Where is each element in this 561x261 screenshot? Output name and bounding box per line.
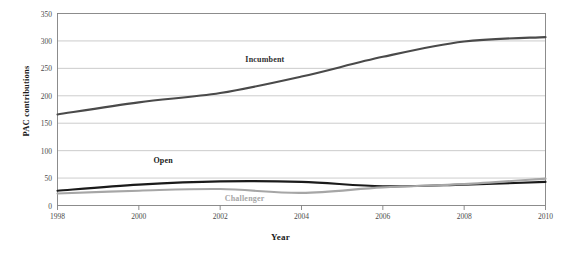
y-tick-label: 150 bbox=[20, 119, 52, 128]
x-tick-label: 2000 bbox=[131, 212, 146, 221]
plot-area bbox=[0, 0, 561, 261]
series-label-incumbent: Incumbent bbox=[245, 54, 284, 63]
series-line-incumbent bbox=[58, 37, 546, 114]
x-tick-label: 2002 bbox=[213, 212, 228, 221]
y-tick-label: 200 bbox=[20, 91, 52, 100]
x-axis-title: Year bbox=[0, 232, 561, 242]
x-tick-label: 2004 bbox=[294, 212, 309, 221]
y-tick-label: 300 bbox=[20, 36, 52, 45]
y-tick-label: 100 bbox=[20, 146, 52, 155]
pac-contributions-line-chart: PAC contributions 050100150200250300350 … bbox=[0, 0, 561, 261]
series-label-open: Open bbox=[153, 156, 172, 165]
x-tick-label: 2010 bbox=[538, 212, 553, 221]
x-tick-label: 2008 bbox=[457, 212, 472, 221]
y-tick-label: 50 bbox=[20, 174, 52, 183]
x-tick-label: 2006 bbox=[375, 212, 390, 221]
y-tick-label: 0 bbox=[20, 201, 52, 210]
y-tick-label: 350 bbox=[20, 9, 52, 18]
series-label-challenger: Challenger bbox=[225, 194, 265, 203]
plot-frame bbox=[58, 14, 546, 206]
y-tick-label: 250 bbox=[20, 64, 52, 73]
series-line-open bbox=[58, 181, 546, 191]
x-tick-label: 1998 bbox=[50, 212, 65, 221]
